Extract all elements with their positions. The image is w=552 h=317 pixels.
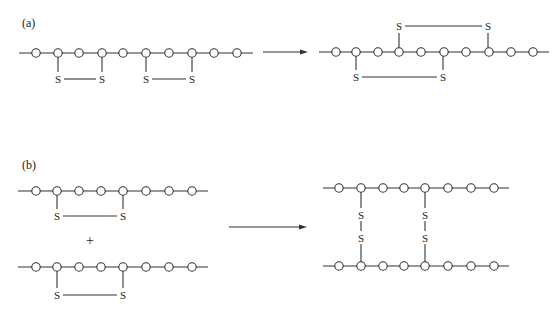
plus-sign: + [86,233,94,248]
chain-atom [490,184,498,192]
sulfur-atom: S [422,209,428,221]
disulfide-exchange-diagram: (a) (b) SSSSSSSS SSSS+SSSS [0,0,552,317]
chain-atom [529,48,537,56]
sulfur-atom: S [54,289,60,301]
chain-atom [188,263,196,271]
chain-atom [421,184,429,192]
panel-b-label: (b) [22,158,36,172]
chain-atom [119,263,127,271]
chain-atom [210,49,218,57]
chain-atom [165,263,173,271]
chain-atom [97,187,105,195]
chain-atom [444,262,452,270]
chain-atom [188,49,196,57]
polymer-chain [18,187,208,195]
chain-atom [444,184,452,192]
chain-atom [53,263,61,271]
polymer-chain [18,263,208,271]
chain-atom [417,48,425,56]
chain-atom [54,49,62,57]
disulfide-bridge: SS [55,57,105,85]
chain-atom [352,48,360,56]
chain-atom [97,263,105,271]
chain-atom [335,262,343,270]
chain-atom [490,262,498,270]
chain-atom [332,48,340,56]
sulfur-atom: S [358,209,364,221]
sulfur-atom: S [54,210,60,222]
chain-atom [119,187,127,195]
chain-atom [395,48,403,56]
sulfur-atom: S [440,71,446,83]
sulfur-atom: S [120,289,126,301]
intermolecular-crosslink: SS [422,192,428,262]
sulfur-atom: S [120,210,126,222]
disulfide-bridge: SS [54,271,126,301]
panel-b: SSSS+SSSS [18,184,509,301]
sulfur-atom: S [358,232,364,244]
chain-atom [142,263,150,271]
sulfur-atom: S [485,20,491,32]
chain-atom [142,187,150,195]
sulfur-atom: S [99,73,105,85]
intermolecular-crosslink: SS [358,192,364,262]
chain-atom [400,262,408,270]
chain-atom [335,184,343,192]
sulfur-atom: S [143,73,149,85]
chain-atom [467,184,475,192]
arrowhead-icon [299,224,307,229]
polymer-chain [319,48,549,56]
polymer-chain [323,262,509,270]
chain-atom [440,48,448,56]
chain-atom [233,49,241,57]
chain-atom [467,262,475,270]
chain-atom [357,184,365,192]
chain-atom [98,49,106,57]
chain-atom [188,187,196,195]
panel-a: SSSSSSSS [19,20,549,85]
arrowhead-icon [300,49,308,54]
panel-a-label: (a) [22,16,35,30]
chain-atom [32,49,40,57]
chain-atom [379,184,387,192]
chain-atom [379,262,387,270]
polymer-chain [19,49,253,57]
chain-atom [421,262,429,270]
chain-atom [165,49,173,57]
sulfur-atom: S [422,232,428,244]
disulfide-bridge: SS [396,20,491,48]
chain-atom [400,184,408,192]
sulfur-atom: S [396,20,402,32]
disulfide-bridge: SS [143,57,195,85]
sulfur-atom: S [55,73,61,85]
chain-atom [485,48,493,56]
disulfide-bridge: SS [353,56,446,83]
chain-atom [32,263,40,271]
reaction-arrow [263,49,308,54]
polymer-chain [323,184,509,192]
chain-atom [357,262,365,270]
chain-atom [32,187,40,195]
chain-atom [75,263,83,271]
disulfide-bridge: SS [54,195,126,222]
chain-atom [119,49,127,57]
chain-atom [75,187,83,195]
chain-atom [462,48,470,56]
chain-atom [75,49,83,57]
reaction-arrow [229,224,307,229]
chain-atom [507,48,515,56]
chain-atom [165,187,173,195]
chain-atom [142,49,150,57]
chain-atom [53,187,61,195]
chain-atom [374,48,382,56]
sulfur-atom: S [353,71,359,83]
sulfur-atom: S [189,73,195,85]
